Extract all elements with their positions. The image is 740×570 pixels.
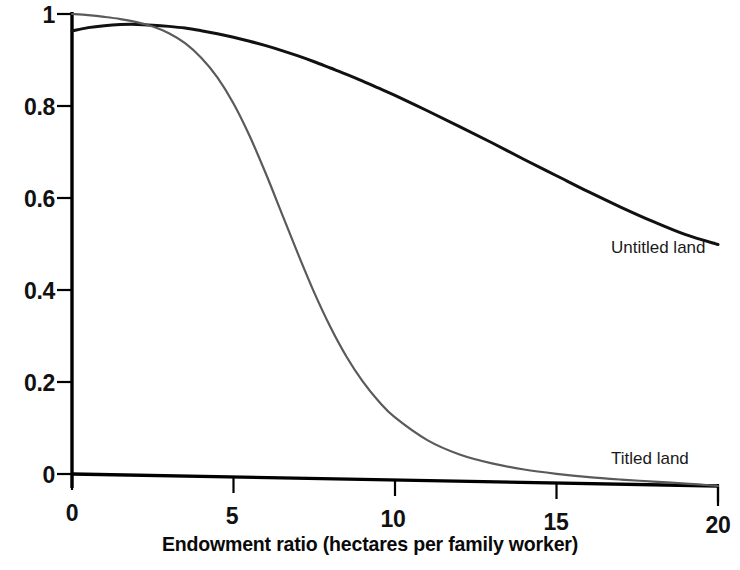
tick-marks [57, 14, 718, 502]
y-tick-label-0.8: 0.8 [0, 94, 55, 121]
y-tick-label-0.6: 0.6 [0, 186, 55, 213]
axis-lines [72, 12, 718, 506]
y-tick-label-0.4: 0.4 [0, 278, 55, 305]
series-annotation-untitled-land: Untitled land [611, 238, 706, 258]
y-tick-label-1: 1 [0, 2, 55, 29]
y-tick-label-0: 0 [0, 462, 55, 489]
x-tick-label-5: 5 [210, 503, 254, 530]
x-tick-label-0: 0 [50, 500, 94, 527]
series-annotation-titled-land: Titled land [611, 449, 689, 469]
chart-figure: 1 0.8 0.6 0.4 0.2 0 0 5 10 15 20 Untitle… [0, 0, 740, 570]
chart-plot-area [0, 0, 740, 570]
series-line-untitled-land [72, 24, 718, 244]
x-axis-title: Endowment ratio (hectares per family wor… [26, 532, 714, 556]
x-tick-label-10: 10 [371, 506, 415, 533]
y-tick-label-0.2: 0.2 [0, 370, 55, 397]
